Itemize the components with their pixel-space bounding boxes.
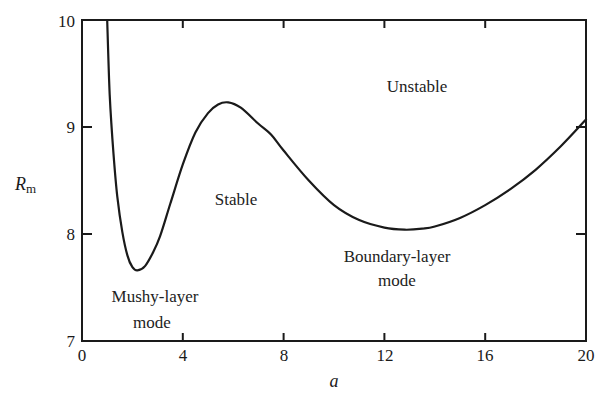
mushy-layer-mode-label: Mushy-layer	[112, 287, 199, 306]
stability-chart: 0 4 8 12 16 20 7 8 9 10 a Rm Unstable St…	[0, 0, 607, 406]
y-axis-title-main: R	[14, 174, 26, 194]
y-tick-label: 9	[67, 118, 76, 137]
x-tick-label: 4	[179, 346, 188, 365]
x-tick-label: 20	[578, 346, 595, 365]
y-axis-title: Rm	[14, 174, 36, 196]
x-tick-label: 12	[377, 346, 394, 365]
y-tick-label: 8	[67, 225, 76, 244]
y-axis-title-subscript: m	[26, 181, 36, 196]
x-axis-title: a	[330, 371, 339, 391]
mushy-layer-mode-label-line2: mode	[133, 313, 171, 332]
y-tick-label: 10	[58, 12, 75, 31]
unstable-region-label: Unstable	[387, 77, 447, 96]
stable-region-label: Stable	[215, 190, 258, 209]
x-tick-label: 0	[78, 346, 87, 365]
x-tick-label: 8	[280, 346, 289, 365]
boundary-layer-mode-label-line2: mode	[378, 271, 416, 290]
y-tick-label: 7	[67, 332, 76, 351]
neutral-stability-curve	[107, 20, 586, 270]
boundary-layer-mode-label: Boundary-layer	[344, 247, 451, 266]
x-tick-label: 16	[477, 346, 494, 365]
